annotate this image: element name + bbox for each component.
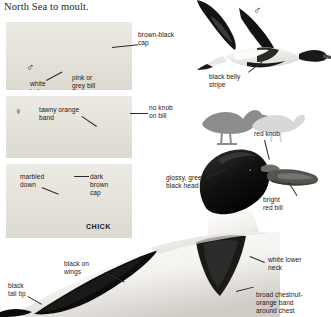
callout-no-knob-on-bill: no knob on bill xyxy=(149,104,173,120)
leader-no-knob-on-bill xyxy=(130,113,148,114)
male-symbol-panel1: ♂ xyxy=(26,62,34,73)
running-text: North Sea to moult. xyxy=(4,1,89,12)
label-pink-grey-bill: pink or grey bill xyxy=(72,74,95,90)
field-guide-page: North Sea to moult. xyxy=(0,0,331,317)
label-white-below: white below xyxy=(30,80,47,90)
photo-panel-male-standing: ♂ white below pink or grey bill xyxy=(6,22,132,90)
male-symbol-flying: ♂ xyxy=(253,5,261,16)
callout-white-lower-neck: white lower neck xyxy=(268,256,302,272)
callout-bright-red-bill: bright red bill xyxy=(263,196,283,212)
photo-panel-chick: marbled down dark brown cap CHICK xyxy=(6,164,132,238)
callout-glossy-green-black-head: glossy, green- black head xyxy=(166,174,208,190)
callout-black-tail-tip: black tail tip xyxy=(8,282,26,298)
callout-red-knob: red knob xyxy=(254,130,280,138)
label-marbled-down: marbled down xyxy=(20,173,44,189)
panel-background xyxy=(6,22,132,90)
callout-broad-chestnut-band: broad chestnut- orange band around chest xyxy=(256,291,303,314)
callout-black-on-wings: black on wings xyxy=(64,260,89,276)
female-symbol-panel2: ♀ xyxy=(14,106,22,117)
callout-black-belly-stripe: black belly stripe xyxy=(209,73,240,89)
label-dark-brown-cap: dark brown cap xyxy=(90,173,108,196)
photo-panel-female-swimming: ♀ tawny orange band xyxy=(6,96,132,158)
callout-brown-black-cap: brown-black cap xyxy=(138,31,174,47)
label-tawny-orange-band: tawny orange band xyxy=(39,106,79,122)
leader-dark-brown-cap xyxy=(74,176,89,177)
